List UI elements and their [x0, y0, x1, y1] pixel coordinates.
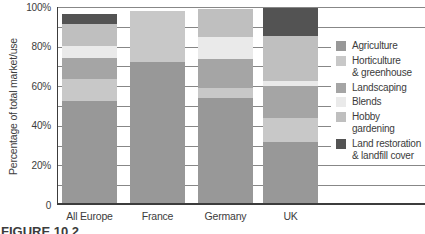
figure-caption: FIGURE 10.2 [1, 224, 79, 234]
segment-horticulture-greenhouse [198, 88, 253, 98]
segment-landscaping [198, 59, 253, 89]
segment-blends [198, 37, 253, 59]
stacked-bar-chart-figure: Percentage of total market/use 020%40%60… [0, 0, 425, 234]
legend-item: Blends [336, 96, 425, 109]
legend-swatch-icon [336, 112, 346, 122]
x-label-france: France [120, 210, 195, 222]
segment-agriculture [130, 62, 185, 205]
gridline-100pct [57, 7, 425, 8]
y-axis-line [57, 7, 58, 205]
y-tick-label-60: 60% [0, 81, 51, 92]
segment-land-restoration-landfill-cover [263, 8, 318, 36]
legend-label: Horticulture & greenhouse [352, 55, 412, 80]
legend-swatch-icon [336, 83, 346, 93]
legend-item: Hobby gardening [336, 111, 425, 136]
x-label-uk: UK [253, 210, 328, 222]
segment-hobby-gardening [263, 36, 318, 82]
bar-germany [198, 9, 253, 205]
bar-all-europe [62, 14, 117, 205]
y-tick-label-80: 80% [0, 41, 51, 52]
legend-label: Hobby gardening [352, 111, 425, 136]
y-tick-label-100: 100% [0, 2, 51, 13]
legend-label: Landscaping [352, 82, 407, 95]
segment-horticulture-greenhouse [263, 118, 318, 142]
segment-horticulture-greenhouse [130, 11, 185, 62]
segment-agriculture [62, 101, 117, 205]
segment-horticulture-greenhouse [62, 79, 117, 101]
legend: AgricultureHorticulture & greenhouseLand… [331, 34, 425, 160]
legend-swatch-icon [336, 139, 346, 149]
legend-swatch-icon [336, 41, 346, 51]
legend-item: Landscaping [336, 82, 425, 95]
bar-uk [263, 8, 318, 205]
legend-item: Land restoration & landfill cover [336, 138, 425, 163]
y-tick-label-40: 40% [0, 120, 51, 131]
legend-label: Land restoration & landfill cover [352, 138, 421, 163]
segment-hobby-gardening [198, 9, 253, 37]
y-axis-title: Percentage of total market/use [7, 7, 20, 207]
x-label-germany: Germany [188, 210, 263, 222]
y-tick-label-20: 20% [0, 160, 51, 171]
legend-swatch-icon [336, 56, 346, 66]
bar-france [130, 11, 185, 205]
segment-land-restoration-landfill-cover [62, 14, 117, 24]
segment-blends [62, 46, 117, 58]
x-axis-line [57, 203, 425, 205]
segment-agriculture [263, 142, 318, 205]
segment-landscaping [62, 58, 117, 80]
legend-item: Horticulture & greenhouse [336, 55, 425, 80]
legend-item: Agriculture [336, 40, 425, 53]
segment-hobby-gardening [62, 24, 117, 46]
segment-agriculture [198, 98, 253, 205]
legend-label: Blends [352, 96, 381, 109]
segment-landscaping [263, 86, 318, 118]
legend-swatch-icon [336, 97, 346, 107]
y-tick-label-0: 0 [0, 200, 51, 211]
x-label-all-europe: All Europe [52, 210, 127, 222]
legend-label: Agriculture [352, 40, 398, 53]
